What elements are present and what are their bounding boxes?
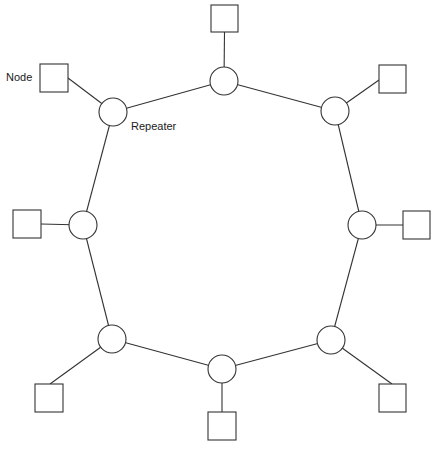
repeater-circle	[210, 67, 238, 95]
node-square	[403, 211, 430, 239]
repeater-circle	[321, 97, 349, 125]
repeater-circle	[98, 325, 126, 353]
repeater-circle	[99, 98, 127, 126]
ring-link	[83, 112, 113, 225]
ring-network-diagram	[0, 0, 437, 449]
ring-link	[331, 225, 362, 340]
repeater-label: Repeater	[131, 120, 176, 132]
repeater-circle	[348, 211, 376, 239]
ring-link	[112, 339, 222, 369]
ring-link	[83, 225, 112, 339]
repeater-circle	[208, 355, 236, 383]
node-square	[208, 412, 236, 440]
node-square	[379, 384, 406, 412]
node-square	[35, 384, 63, 412]
node-square	[211, 5, 238, 32]
repeater-circle	[317, 326, 345, 354]
repeater-circle	[69, 211, 97, 239]
ring-link	[113, 81, 224, 112]
ring-link	[222, 340, 331, 369]
ring-link	[224, 81, 335, 111]
node-square	[379, 65, 406, 93]
node-label: Node	[6, 71, 32, 83]
node-square	[40, 64, 68, 92]
repeaters	[69, 67, 376, 383]
ring-links	[83, 81, 362, 369]
ring-link	[335, 111, 362, 225]
node-square	[13, 210, 41, 238]
